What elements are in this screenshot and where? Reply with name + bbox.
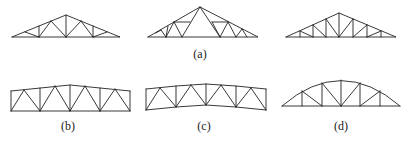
truss-b <box>11 85 130 111</box>
truss-a2 <box>148 7 258 37</box>
truss-a3 <box>286 13 396 37</box>
truss-a1 <box>12 15 120 37</box>
label-c: (c) <box>197 119 210 133</box>
label-b: (b) <box>61 119 75 133</box>
label-d: (d) <box>334 119 348 133</box>
truss-diagram: (a) (b) (c) <box>0 0 404 143</box>
truss-c <box>146 84 266 110</box>
truss-d <box>282 80 400 106</box>
label-a: (a) <box>193 47 206 61</box>
